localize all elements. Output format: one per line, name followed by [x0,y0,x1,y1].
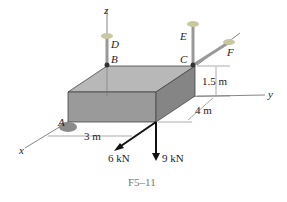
label-point-f: F [226,46,234,58]
label-point-c: C [180,53,188,65]
label-depth-dim: 4 m [195,104,212,116]
label-x-axis: x [18,144,24,156]
box-front-face [68,92,156,122]
joint-c-icon [191,63,196,68]
label-height-dim: 1.5 m [202,75,228,87]
label-y-axis: y [267,88,273,100]
label-point-b: B [111,53,118,65]
label-z-axis: z [103,4,109,16]
label-point-e: E [179,30,187,42]
arrowhead-9kn-icon [152,153,160,161]
anchor-e-icon [187,21,199,27]
cable-cf [195,43,228,64]
label-load-6kn: 6 kN [108,152,130,164]
figure-caption: F5–11 [128,176,156,188]
rigid-body-diagram: z y x A B C D E F 1.5 m 4 m 3 m 6 kN 9 k… [0,0,287,202]
load-6kn-arrow [118,122,156,148]
joint-b-icon [105,63,110,68]
label-point-d: D [110,38,119,50]
label-offset-dim: 3 m [84,130,101,142]
anchor-f-icon [223,39,235,45]
label-load-9kn: 9 kN [162,152,184,164]
label-point-a: A [57,116,65,128]
